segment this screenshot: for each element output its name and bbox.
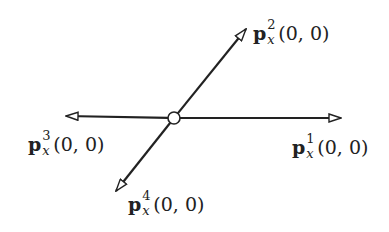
subscript: x	[267, 33, 274, 46]
vector-symbol: p	[253, 22, 266, 44]
vector-symbol: p	[128, 193, 141, 215]
vector-symbol: p	[28, 133, 41, 155]
label-p3: p3x(0, 0)	[28, 135, 104, 157]
arrow-p3	[66, 116, 168, 118]
arguments: (0, 0)	[278, 22, 329, 44]
vector-symbol: p	[292, 136, 305, 158]
subscript: x	[142, 204, 149, 217]
subscript: x	[306, 147, 313, 160]
arguments: (0, 0)	[153, 193, 204, 215]
arguments: (0, 0)	[317, 136, 368, 158]
superscript: 3	[42, 129, 50, 142]
label-p1: p1x(0, 0)	[292, 138, 368, 160]
superscript: 4	[142, 189, 150, 202]
arrow-p4	[116, 123, 170, 191]
subscript: x	[42, 144, 49, 157]
label-p2: p2x(0, 0)	[253, 24, 329, 46]
origin-node	[168, 112, 180, 124]
superscript: 1	[306, 132, 314, 145]
arrow-p2	[178, 29, 246, 113]
arguments: (0, 0)	[53, 133, 104, 155]
label-p4: p4x(0, 0)	[128, 195, 204, 217]
superscript: 2	[267, 18, 275, 31]
